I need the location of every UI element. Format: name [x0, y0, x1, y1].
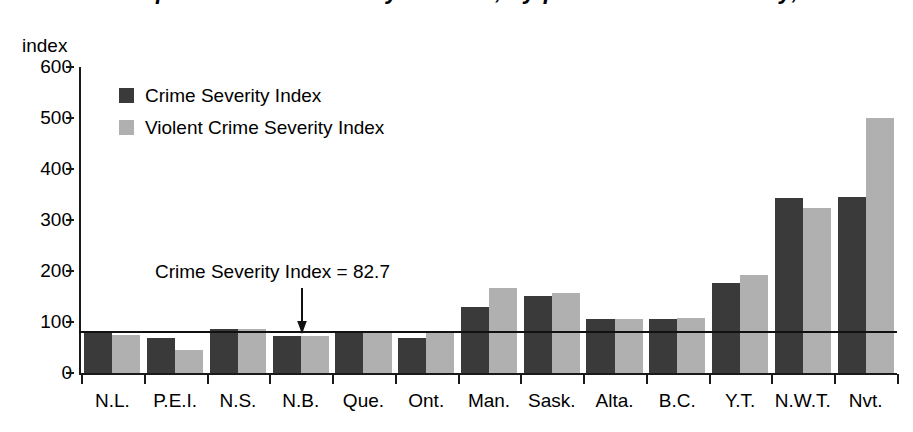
y-tick-mark	[66, 372, 74, 374]
x-tick-label-nvt: Nvt.	[849, 390, 883, 411]
y-tick-mark	[66, 117, 74, 119]
bar-group-alta	[586, 67, 642, 373]
y-tick-mark	[66, 219, 74, 221]
x-tick-mark	[897, 374, 899, 384]
bar-nwt-series1	[775, 198, 803, 373]
chart-title: Police-reported crime severity indexes, …	[0, 0, 913, 8]
chart-legend: Crime Severity Index Violent Crime Sever…	[119, 82, 384, 146]
bar-group-bc	[649, 67, 705, 373]
bar-ont-series1	[398, 338, 426, 373]
y-tick-mark	[66, 321, 74, 323]
bar-nb-series2	[301, 336, 329, 373]
y-tick-label: 0	[14, 363, 72, 382]
reference-line-82-7	[79, 331, 897, 333]
y-tick-mark	[66, 66, 74, 68]
x-tick-label-sask: Sask.	[528, 390, 576, 411]
bar-nvt-series1	[838, 197, 866, 373]
bar-yt-series2	[740, 275, 768, 373]
x-tick-label-ns: N.S.	[219, 390, 256, 411]
x-tick-mark	[771, 374, 773, 384]
bar-group-ont	[398, 67, 454, 373]
x-tick-label-yt: Y.T.	[725, 390, 755, 411]
x-tick-mark	[646, 374, 648, 384]
x-tick-label-bc: B.C.	[659, 390, 696, 411]
x-tick-label-alta: Alta.	[596, 390, 634, 411]
x-tick-label-pei: P.E.I.	[153, 390, 197, 411]
x-tick-mark	[332, 374, 334, 384]
y-tick-label: 600	[14, 57, 72, 76]
x-tick-label-nwt: N.W.T.	[775, 390, 831, 411]
bar-alta-series2	[615, 319, 643, 373]
x-tick-mark	[81, 374, 83, 384]
x-tick-mark	[395, 374, 397, 384]
y-tick-label: 400	[14, 159, 72, 178]
y-tick-label: 300	[14, 210, 72, 229]
legend-label-primary: Crime Severity Index	[145, 86, 321, 105]
bar-nl-series1	[84, 333, 112, 373]
bar-pei-series2	[175, 350, 203, 373]
x-tick-mark	[583, 374, 585, 384]
bar-group-yt	[712, 67, 768, 373]
crime-severity-index-chart: Police-reported crime severity indexes, …	[0, 0, 913, 432]
bar-man-series1	[461, 307, 489, 373]
x-tick-mark	[269, 374, 271, 384]
legend-swatch-icon-primary	[119, 88, 134, 103]
bar-ns-series1	[210, 329, 238, 373]
bar-sask-series1	[524, 296, 552, 373]
bar-pei-series1	[147, 338, 175, 373]
reference-line-annotation-label: Crime Severity Index = 82.7	[155, 262, 390, 281]
bar-group-nwt	[775, 67, 831, 373]
x-tick-mark	[207, 374, 209, 384]
bar-bc-series2	[677, 318, 705, 373]
x-axis-line	[79, 373, 897, 375]
x-tick-mark	[834, 374, 836, 384]
x-tick-label-que: Que.	[343, 390, 384, 411]
bar-nb-series1	[273, 336, 301, 373]
bar-sask-series2	[552, 293, 580, 373]
y-tick-label: 500	[14, 108, 72, 127]
y-axis-title: index	[22, 36, 67, 55]
y-tick-mark	[66, 168, 74, 170]
legend-item-crime-severity-index: Crime Severity Index	[119, 82, 384, 108]
x-tick-label-nl: N.L.	[95, 390, 130, 411]
bar-group-nvt	[838, 67, 894, 373]
y-tick-label: 200	[14, 261, 72, 280]
legend-item-violent-crime-severity-index: Violent Crime Severity Index	[119, 114, 384, 140]
bar-nvt-series2	[866, 118, 894, 373]
bar-que-series1	[335, 332, 363, 373]
bar-yt-series1	[712, 283, 740, 373]
x-tick-mark	[458, 374, 460, 384]
bar-group-man	[461, 67, 517, 373]
x-tick-mark	[709, 374, 711, 384]
x-tick-label-nb: N.B.	[282, 390, 319, 411]
bar-group-sask	[524, 67, 580, 373]
x-tick-label-man: Man.	[468, 390, 510, 411]
x-tick-mark	[144, 374, 146, 384]
bar-que-series2	[363, 332, 391, 373]
bar-alta-series1	[586, 319, 614, 373]
x-tick-label-ont: Ont.	[408, 390, 444, 411]
bar-nl-series2	[112, 335, 140, 373]
annotation-down-arrow-icon	[296, 288, 308, 334]
bar-ont-series2	[426, 333, 454, 373]
legend-swatch-icon-secondary	[119, 120, 134, 135]
bar-bc-series1	[649, 319, 677, 373]
y-tick-mark	[66, 270, 74, 272]
y-tick-label: 100	[14, 312, 72, 331]
x-tick-mark	[520, 374, 522, 384]
legend-label-secondary: Violent Crime Severity Index	[145, 118, 384, 137]
bar-nwt-series2	[803, 208, 831, 373]
bar-ns-series2	[238, 329, 266, 373]
